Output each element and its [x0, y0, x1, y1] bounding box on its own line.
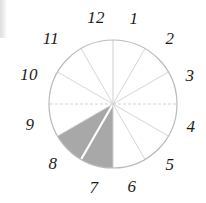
spoke-1-oclock	[113, 49, 145, 104]
hour-label-5: 5	[166, 156, 175, 173]
spoke-4-oclock	[113, 104, 168, 136]
clock-face-svg	[0, 0, 206, 203]
hour-label-8: 8	[49, 155, 58, 172]
hour-label-4: 4	[187, 118, 196, 135]
hour-label-11: 11	[43, 30, 59, 47]
hour-label-1: 1	[130, 10, 139, 27]
hour-label-2: 2	[166, 30, 175, 47]
spoke-11-oclock	[81, 49, 113, 104]
shaded-sector-7	[58, 104, 113, 168]
hour-label-10: 10	[20, 66, 38, 83]
hour-label-12: 12	[87, 9, 105, 26]
hour-label-7: 7	[90, 179, 99, 196]
clock-diagram-figure: 12 1 2 3 4 5 6 7 8 9 10 11	[0, 0, 206, 203]
spoke-10-oclock	[58, 72, 113, 104]
hour-label-9: 9	[26, 116, 35, 133]
hour-label-3: 3	[186, 67, 195, 84]
hour-label-6: 6	[128, 178, 137, 195]
spoke-5-oclock	[113, 104, 145, 159]
spoke-2-oclock	[113, 72, 168, 104]
